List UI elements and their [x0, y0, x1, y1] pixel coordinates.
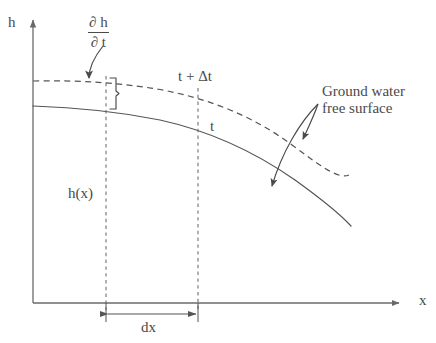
x-axis-label: x — [419, 292, 427, 309]
free-surface-curve-t — [33, 106, 351, 226]
groundwater-diagram: h x h(x) t t + Δt dx ∂ h ∂ t Ground wate… — [0, 0, 436, 343]
delta-h-brace — [110, 78, 119, 109]
head-function-label: h(x) — [68, 185, 93, 202]
curve-label-t-plus-delta-t: t + Δt — [178, 68, 212, 85]
curve-label-t: t — [210, 118, 214, 135]
derivative-denominator: ∂ t — [88, 33, 109, 51]
dx-label: dx — [141, 319, 156, 336]
element-boundary-lines — [106, 76, 198, 310]
rate-of-change-arrow — [89, 46, 103, 78]
ground-water-label-line1: Ground water — [322, 83, 405, 100]
callout-arrow-to-solid-curve — [272, 104, 318, 186]
axis-group — [33, 20, 399, 303]
derivative-numerator: ∂ h — [88, 14, 109, 33]
y-axis-label: h — [8, 14, 16, 31]
diagram-canvas — [0, 0, 436, 343]
callout-arrow-to-dashed-curve — [303, 104, 318, 139]
partial-derivative-label: ∂ h ∂ t — [88, 14, 109, 51]
ground-water-label-line2: free surface — [322, 100, 405, 117]
ground-water-free-surface-label: Ground water free surface — [322, 83, 405, 117]
